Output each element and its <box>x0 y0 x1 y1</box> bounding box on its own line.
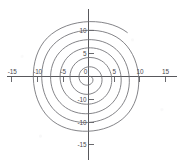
y-tick-label--10: -10 <box>77 119 86 126</box>
spiral-plot-figure: -15 -10 -5 5 10 15 10 5 -10 -10 -15 0 <box>0 0 184 166</box>
x-tick-label-10: 10 <box>136 68 143 75</box>
x-tick-label-15: 15 <box>162 68 169 75</box>
x-tick-label--15: -15 <box>8 68 17 75</box>
y-tick-label-5: 5 <box>83 50 87 57</box>
x-tick-label--5: -5 <box>60 68 66 75</box>
y-tick-labels: 10 5 -10 -10 -15 <box>77 27 86 148</box>
y-tick-label-10: 10 <box>79 27 86 34</box>
y-tick-label--15: -15 <box>77 141 86 148</box>
y-tick-label--5: -10 <box>77 96 86 103</box>
axes-group <box>7 9 177 160</box>
x-tick-label--10: -10 <box>33 68 42 75</box>
x-tick-label-5: 5 <box>113 68 117 75</box>
plot-canvas: -15 -10 -5 5 10 15 10 5 -10 -10 -15 0 <box>0 0 184 166</box>
origin-label: 0 <box>84 68 88 75</box>
